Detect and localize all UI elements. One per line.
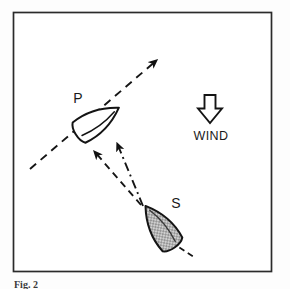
figure-caption: Fig. 2	[14, 279, 38, 289]
sailing-diagram: P S WIND	[0, 0, 290, 289]
figure-frame	[14, 13, 272, 272]
wind-label: WIND	[194, 129, 229, 143]
frame-rectangle	[14, 13, 272, 272]
starboard-boat-label: S	[171, 195, 180, 211]
figure-root: P S WIND Fig. 2	[0, 0, 290, 289]
port-boat-label: P	[73, 90, 82, 106]
